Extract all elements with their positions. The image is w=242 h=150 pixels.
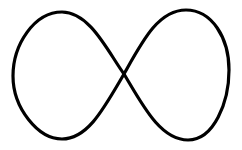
- infinity-icon: [0, 0, 242, 150]
- infinity-curve: [13, 10, 229, 140]
- infinity-figure: [0, 0, 242, 150]
